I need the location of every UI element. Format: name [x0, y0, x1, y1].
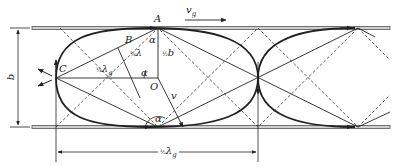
b-symbol: b: [168, 47, 174, 58]
waveguide-diagram: [0, 0, 405, 168]
label-b: B: [125, 35, 132, 45]
label-a: A: [154, 14, 161, 24]
label-vg: vg: [186, 5, 196, 18]
label-alpha-mid: α: [141, 68, 148, 78]
field-arrows-c: [38, 60, 258, 94]
label-b-dimension: b: [6, 74, 16, 80]
label-half-lambda-g: ½λg: [158, 146, 179, 159]
vg-subscript: g: [192, 10, 196, 18]
vertical-reference-lines: [56, 60, 258, 162]
g-subscript: g: [172, 151, 176, 159]
label-quarter-lambda-g: ¼λg: [96, 64, 113, 77]
label-alpha-top: α: [149, 35, 156, 45]
solid-rays: [56, 28, 390, 127]
dashed-rays: [56, 28, 390, 127]
plate-arrows: [140, 28, 352, 127]
field-lines: [56, 28, 355, 127]
g-subscript: g: [108, 69, 112, 77]
label-quarter-lambda: ¼λ: [130, 48, 142, 58]
label-o: O: [150, 82, 158, 92]
lambda-symbol: λ: [136, 47, 142, 58]
label-half-b: ½b: [162, 48, 174, 58]
label-alpha-bottom: α: [155, 114, 162, 124]
label-v: v: [171, 91, 177, 101]
label-c: C: [59, 64, 67, 74]
